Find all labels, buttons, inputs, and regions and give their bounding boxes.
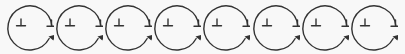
circular-arrow-icon [344,0,398,54]
inner-tack-icon [17,19,26,26]
cycle-arc [302,6,346,50]
cycle-glyph-6 [246,0,300,54]
cycle-glyph-2 [49,0,103,54]
cycle-arc [352,6,396,50]
inner-tack-icon [164,19,173,26]
cycle-arc [253,6,297,50]
inner-tack-icon [262,19,271,26]
circular-arrow-icon [147,0,201,54]
cycle-arc [106,6,150,50]
cycle-arc [57,6,101,50]
cycle-glyph-5 [196,0,250,54]
inner-tack-icon [115,19,124,26]
cycle-arc [204,6,248,50]
inner-tack-icon [213,19,222,26]
cycle-glyph-8 [344,0,398,54]
inner-tack-icon [66,19,75,26]
circular-arrow-icon [98,0,152,54]
cycle-arc [155,6,199,50]
cycle-glyph-3 [98,0,152,54]
cycle-glyph-1 [0,0,54,54]
circular-arrow-icon [196,0,250,54]
cycle-diagram-row [0,0,405,54]
cycle-glyph-7 [295,0,349,54]
cycle-arc [8,6,52,50]
inner-tack-icon [311,19,320,26]
circular-arrow-icon [49,0,103,54]
circular-arrow-icon [295,0,349,54]
cycle-glyph-4 [147,0,201,54]
inner-tack-icon [360,19,369,26]
circular-arrow-icon [0,0,54,54]
circular-arrow-icon [246,0,300,54]
